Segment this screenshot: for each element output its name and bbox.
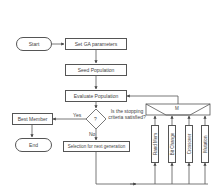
operator-bit-change: Bit Change: [168, 125, 176, 163]
operator-rand-mem: Rand Mem: [151, 125, 159, 163]
selection-node: Selection for next generation: [63, 141, 130, 152]
set-ga-parameters-node: Set GA parameters: [65, 38, 127, 50]
ga-flowchart: Start Set GA parameters Seed Population …: [0, 0, 223, 196]
end-label: End: [29, 142, 38, 148]
operator-mutation: Mutation: [201, 125, 209, 163]
no-label: No: [89, 131, 95, 137]
evaluate-population-node: Evaluate Population: [65, 90, 127, 102]
combiner-symbol: M: [175, 106, 179, 112]
decision-question: Is the stopping criteria satisfied?: [108, 108, 146, 120]
operator-crossover: Crossover: [185, 125, 193, 163]
end-node: End: [15, 138, 52, 152]
operator-label: Bit Change: [170, 133, 175, 155]
best-member-node: Best Member: [12, 113, 53, 125]
seed-population-label: Seed Population: [78, 67, 115, 73]
operator-label: Crossover: [187, 134, 192, 155]
operator-label: Rand Mem: [153, 133, 158, 155]
yes-label: Yes: [73, 112, 81, 118]
start-label: Start: [29, 41, 40, 47]
decision-symbol: ?: [94, 116, 97, 122]
set-ga-parameters-label: Set GA parameters: [75, 41, 118, 47]
operator-label: Mutation: [203, 135, 208, 152]
start-node: Start: [16, 37, 52, 51]
selection-label: Selection for next generation: [68, 144, 125, 149]
evaluate-population-label: Evaluate Population: [74, 93, 118, 99]
seed-population-node: Seed Population: [65, 64, 127, 76]
best-member-label: Best Member: [18, 116, 48, 122]
